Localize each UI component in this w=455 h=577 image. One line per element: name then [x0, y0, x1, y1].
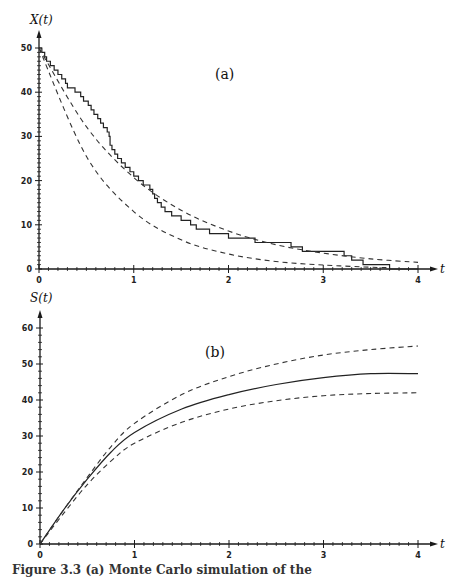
y-tick-label: 60	[22, 324, 34, 333]
chart-panel-a: 0123401020304050X(t)t(a)	[21, 13, 445, 285]
x-tick-label: 0	[37, 551, 43, 560]
x-tick-label: 0	[36, 276, 42, 285]
y-axis-arrow-icon	[38, 310, 43, 318]
y-tick-label: 30	[22, 432, 34, 441]
y-tick-label: 0	[27, 540, 33, 549]
y-axis-arrow-icon	[37, 30, 42, 38]
x-axis-arrow-icon	[430, 542, 438, 547]
x-tick-label: 2	[226, 276, 232, 285]
y-tick-label: 50	[21, 44, 33, 53]
panel-label: (a)	[215, 66, 234, 82]
x-tick-label: 4	[415, 551, 421, 560]
y-tick-label: 20	[22, 468, 34, 477]
x-tick-label: 1	[132, 551, 138, 560]
x-tick-label: 3	[321, 551, 327, 560]
x-tick-label: 1	[131, 276, 137, 285]
x-tick-label: 2	[226, 551, 232, 560]
x-tick-label: 4	[415, 276, 421, 285]
y-tick-label: 30	[21, 132, 33, 141]
figure-caption: Figure 3.3 (a) Monte Carlo simulation of…	[12, 563, 312, 577]
y-tick-label: 10	[21, 221, 33, 230]
chart-panel-b: 012340102030405060S(t)t(b)	[22, 291, 445, 560]
y-tick-label: 40	[22, 396, 34, 405]
y-tick-label: 0	[26, 265, 32, 274]
y-tick-label: 50	[22, 360, 34, 369]
x-axis-label: t	[440, 537, 445, 551]
y-tick-label: 20	[21, 177, 33, 186]
x-tick-label: 3	[320, 276, 326, 285]
x-axis-arrow-icon	[430, 267, 438, 272]
y-tick-label: 10	[22, 504, 34, 513]
dashed-bound-line	[40, 346, 418, 544]
y-axis-label: X(t)	[29, 13, 53, 27]
y-axis-label: S(t)	[30, 291, 53, 305]
panel-label: (b)	[205, 344, 225, 360]
y-tick-label: 40	[21, 88, 33, 97]
x-axis-label: t	[440, 262, 445, 276]
data-line	[40, 373, 418, 544]
